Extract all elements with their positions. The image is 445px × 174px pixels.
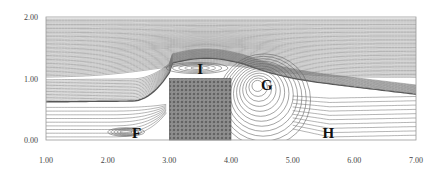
streamline xyxy=(293,103,416,107)
streamline xyxy=(293,129,416,137)
y-tick-label: 1.00 xyxy=(24,75,38,84)
x-tick-label: 7.00 xyxy=(409,156,423,165)
x-tick-label: 3.00 xyxy=(162,156,176,165)
y-tick-label: 0.00 xyxy=(24,136,38,145)
y-axis-ticks: 0.001.002.00 xyxy=(24,13,38,145)
streamline xyxy=(46,111,166,130)
streamline xyxy=(293,96,416,98)
y-tick-label: 2.00 xyxy=(24,13,38,22)
streamline xyxy=(46,104,166,107)
region-label-g: G xyxy=(261,77,273,93)
streamline xyxy=(46,109,166,122)
vortex-loop xyxy=(233,66,289,121)
streamline xyxy=(46,29,416,30)
streamline xyxy=(46,28,416,29)
streamline xyxy=(293,111,416,116)
porous-block xyxy=(169,79,231,141)
x-axis-ticks: 1.002.003.004.005.006.007.00 xyxy=(39,156,423,165)
x-tick-label: 5.00 xyxy=(286,156,300,165)
streamline xyxy=(46,107,166,115)
region-label-i: I xyxy=(197,61,203,77)
streamline xyxy=(46,112,166,133)
streamline xyxy=(293,107,416,111)
streamline xyxy=(293,100,416,103)
x-tick-label: 6.00 xyxy=(347,156,361,165)
region-label-h: H xyxy=(323,125,335,141)
streamline xyxy=(293,118,416,124)
streamline-figure: 1.002.003.004.005.006.007.00 0.001.002.0… xyxy=(0,0,445,174)
x-tick-label: 4.00 xyxy=(224,156,238,165)
region-label-f: F xyxy=(132,125,141,141)
streamline xyxy=(46,27,416,28)
streamline xyxy=(293,125,416,132)
streamline xyxy=(46,30,416,31)
x-tick-label: 2.00 xyxy=(101,156,115,165)
x-tick-label: 1.00 xyxy=(39,156,53,165)
